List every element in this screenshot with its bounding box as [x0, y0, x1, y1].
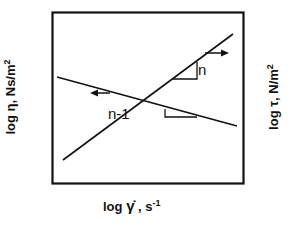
y-right-unit-exp: 2: [265, 64, 275, 69]
y-right-log: log: [266, 110, 281, 130]
x-log: log: [103, 199, 123, 214]
y-axis-right-label: log τ, N/m2: [273, 97, 288, 113]
x-unit-exp: -1: [153, 198, 161, 208]
x-axis-label: log γ̇ , s-1: [103, 197, 161, 214]
y-right-unit: , N/m: [266, 69, 281, 101]
x-unit: , s: [138, 199, 152, 214]
diagram-canvas: [0, 0, 288, 227]
y-axis-left-label: log η, Ns/m2: [10, 97, 85, 113]
y-left-unit: , Ns/m: [3, 64, 18, 103]
arrow-right-icon: [205, 50, 229, 57]
slope-label-n: n: [198, 61, 206, 78]
y-left-log: log: [3, 115, 18, 135]
slope-label-n-minus-1: n-1: [108, 105, 130, 122]
y-right-symbol: τ: [266, 101, 281, 107]
y-left-symbol: η: [3, 103, 18, 111]
y-left-unit-exp: 2: [2, 59, 12, 64]
x-symbol: γ̇: [126, 197, 134, 214]
